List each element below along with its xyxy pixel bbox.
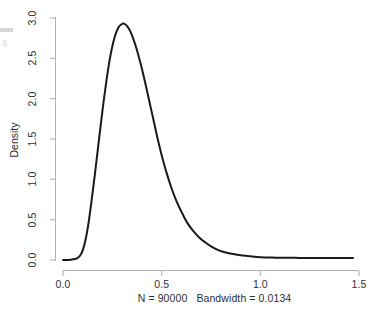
y-axis-tick-marks <box>50 18 56 260</box>
density-curve <box>63 24 353 260</box>
x-tick-label: 0.5 <box>142 278 182 290</box>
y-tick-label: 2.5 <box>25 43 39 73</box>
y-tick-label: 1.0 <box>25 164 39 194</box>
x-tick-label: 0.0 <box>43 278 83 290</box>
x-axis-tick-marks <box>63 271 359 277</box>
y-tick-label: 0.5 <box>25 205 39 235</box>
y-tick-label: 1.5 <box>25 124 39 154</box>
y-axis-title: Density <box>7 100 21 180</box>
y-tick-label: 2.0 <box>25 84 39 114</box>
plot-canvas <box>0 0 385 313</box>
y-tick-label: 0.0 <box>25 245 39 275</box>
axes-group <box>50 17 359 276</box>
density-plot-figure: Density N = 90000 Bandwidth = 0.0134 0.0… <box>0 0 385 313</box>
x-tick-label: 1.5 <box>339 278 379 290</box>
x-axis-caption: N = 90000 Bandwidth = 0.0134 <box>22 292 385 304</box>
y-tick-label: 3.0 <box>25 3 39 33</box>
x-tick-label: 1.0 <box>240 278 280 290</box>
